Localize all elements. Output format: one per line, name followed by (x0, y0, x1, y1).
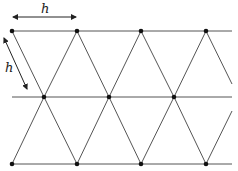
lattice-diagram: h h (0, 0, 238, 171)
lattice-edge (109, 31, 141, 97)
lattice-edge (174, 97, 206, 164)
lattice-point (10, 162, 15, 167)
lattice-point (75, 162, 80, 167)
lattice-edge (141, 31, 174, 97)
lattice-canvas (0, 0, 238, 171)
lattice-point (204, 29, 209, 34)
lattice-point (172, 95, 177, 100)
lattice-point (139, 29, 144, 34)
lattice-edge-partial (206, 31, 232, 84)
lattice-edge (12, 97, 44, 164)
lattice-edge (12, 31, 44, 97)
lattice-point (139, 162, 144, 167)
lattice-edge (77, 31, 109, 97)
lattice-edge (141, 97, 174, 164)
lattice-edge (44, 97, 77, 164)
lattice-point (204, 162, 209, 167)
lattice-edge (109, 97, 141, 164)
lattice-edge-partial (206, 111, 232, 164)
lattice-point (10, 29, 15, 34)
lattice-point (107, 95, 112, 100)
slanted-spacing-label: h (5, 61, 13, 74)
lattice-edge (77, 97, 109, 164)
lattice-point (42, 95, 47, 100)
lattice-edge (174, 31, 206, 97)
horizontal-spacing-label: h (41, 2, 49, 15)
lattice-edge (44, 31, 77, 97)
lattice-point (75, 29, 80, 34)
